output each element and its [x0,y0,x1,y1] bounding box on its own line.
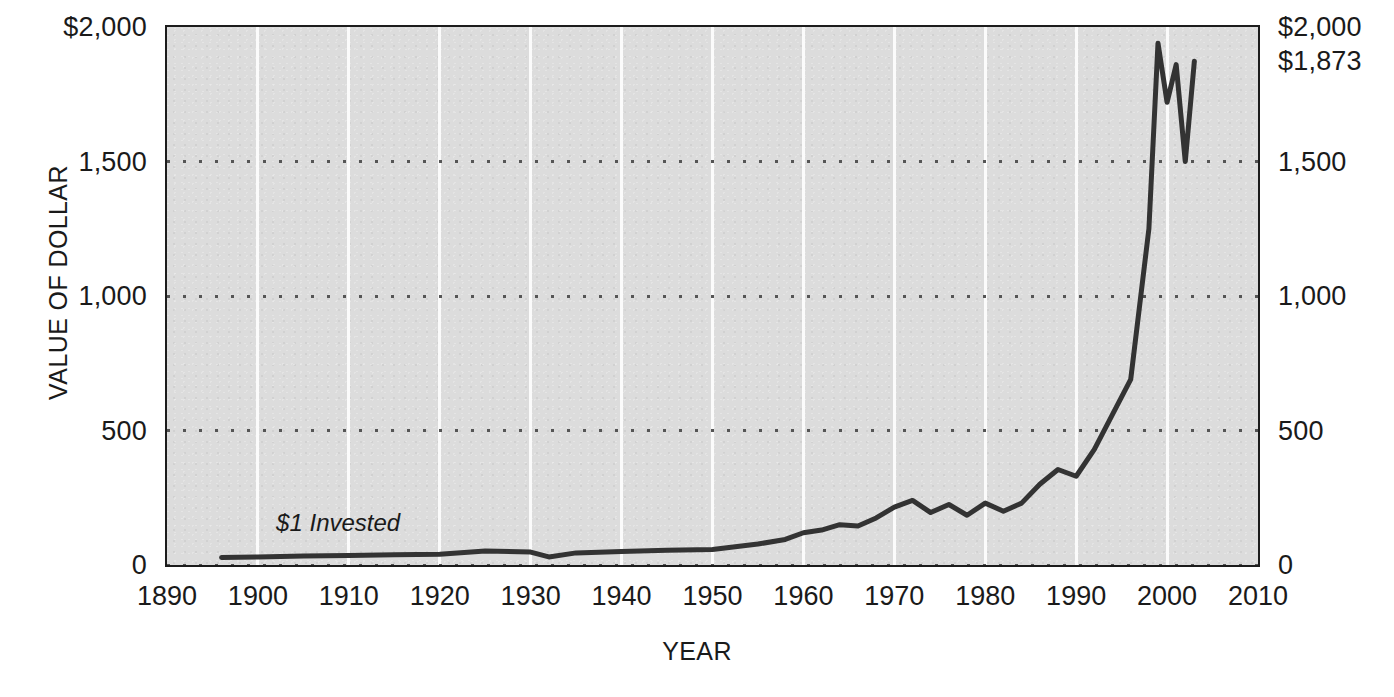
y-tick-label-left: 0 [0,552,147,579]
x-axis-title: YEAR [0,637,1394,666]
chart-container: $1 Invested $2,0001,5001,0005000 $2,0001… [0,0,1394,697]
y-axis-title: VALUE OF DOLLAR [44,133,73,433]
y-tick-label-left: 1,000 [0,283,147,310]
y-tick-label-right: 1,000 [1278,283,1347,310]
y-tick-label-left: $2,000 [0,14,147,41]
y-tick-label-right: 500 [1278,418,1324,445]
y-tick-label-right: 1,500 [1278,149,1347,176]
series-line-value-of-dollar [167,27,1258,565]
plot-area: $1 Invested [165,25,1260,567]
annotation-dollar-invested: $1 Invested [276,511,400,535]
y-tick-label-right: 0 [1278,552,1293,579]
x-tick-label: 2010 [1198,583,1318,610]
y-tick-label-right: $2,000 [1278,14,1362,41]
final-value-label: $1,873 [1278,48,1362,75]
y-tick-label-left: 500 [0,418,147,445]
y-tick-label-left: 1,500 [0,149,147,176]
